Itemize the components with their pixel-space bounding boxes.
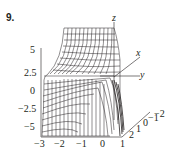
z-axis-label: z [112, 13, 116, 23]
surface-wireframe [42, 28, 120, 136]
y-tick-neg3: −3 [34, 139, 45, 149]
x-tick-neg2: −2 [154, 109, 165, 119]
x-axis-label: x [136, 48, 140, 58]
y-tick-neg1: −1 [76, 139, 87, 149]
y-tick-1: 1 [120, 139, 125, 149]
z-tick-5: 5 [30, 45, 35, 55]
x-tick-1: 1 [136, 124, 141, 134]
z-tick-neg2.5: −2.5 [18, 104, 36, 114]
y-tick-0: 0 [100, 139, 105, 149]
y-tick-neg2: −2 [54, 139, 65, 149]
z-tick-neg5: −5 [24, 122, 35, 132]
z-tick-2.5: 2.5 [24, 68, 37, 78]
surface-plot [0, 0, 172, 159]
z-tick-0: 0 [30, 86, 35, 96]
y-axis-label: y [140, 70, 144, 80]
x-tick-2: 2 [129, 130, 134, 140]
